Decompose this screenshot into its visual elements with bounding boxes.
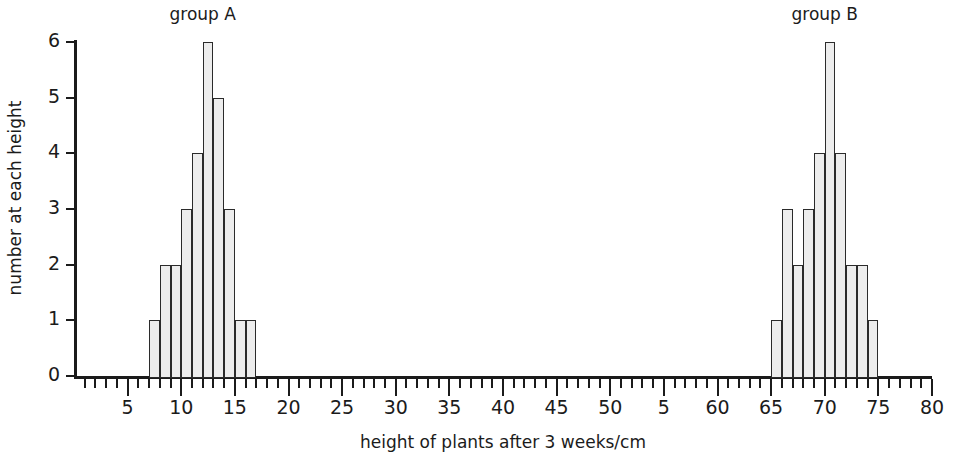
x-tick-label: 45: [532, 396, 582, 418]
x-tick-minor: [320, 379, 322, 388]
x-tick-major: [448, 379, 450, 396]
histogram-bar: [203, 42, 214, 378]
x-tick-minor: [834, 379, 836, 388]
histogram-bar: [846, 265, 857, 378]
x-tick-minor: [330, 379, 332, 388]
x-tick-minor: [802, 379, 804, 388]
x-tick-minor: [277, 379, 279, 388]
x-tick-label: 5: [103, 396, 153, 418]
x-axis-label: height of plants after 3 weeks/cm: [74, 432, 932, 452]
histogram-bar: [835, 153, 846, 378]
x-tick-minor: [148, 379, 150, 388]
x-tick-label: 20: [264, 396, 314, 418]
x-tick-minor: [641, 379, 643, 388]
x-tick-minor: [223, 379, 225, 388]
x-tick-minor: [427, 379, 429, 388]
histogram-bar: [782, 209, 793, 378]
x-tick-minor: [105, 379, 107, 388]
x-tick-minor: [652, 379, 654, 388]
x-tick-label: 65: [746, 396, 796, 418]
x-tick-label: 60: [693, 396, 743, 418]
x-tick-minor: [363, 379, 365, 388]
histogram-bar: [857, 265, 868, 378]
x-tick-minor: [191, 379, 193, 388]
x-tick-minor: [599, 379, 601, 388]
x-tick-minor: [245, 379, 247, 388]
x-tick-minor: [298, 379, 300, 388]
x-tick-minor: [94, 379, 96, 388]
x-tick-minor: [481, 379, 483, 388]
y-tick: [66, 41, 75, 43]
x-tick-major: [717, 379, 719, 396]
x-tick-minor: [513, 379, 515, 388]
histogram-bar: [825, 42, 836, 378]
x-tick-major: [234, 379, 236, 396]
y-tick: [66, 319, 75, 321]
x-tick-major: [341, 379, 343, 396]
x-tick-minor: [491, 379, 493, 388]
x-tick-label: 50: [585, 396, 635, 418]
y-tick-label: 2: [26, 252, 60, 274]
x-tick-minor: [384, 379, 386, 388]
x-tick-major: [609, 379, 611, 396]
y-tick-label: 6: [26, 29, 60, 51]
histogram-bar: [171, 265, 182, 378]
histogram-bar: [192, 153, 203, 378]
x-tick-minor: [266, 379, 268, 388]
x-tick-label: 5: [639, 396, 689, 418]
x-tick-minor: [202, 379, 204, 388]
x-tick-minor: [159, 379, 161, 388]
x-tick-major: [824, 379, 826, 396]
y-tick-label: 4: [26, 140, 60, 162]
x-tick-label: 75: [853, 396, 903, 418]
x-tick-minor: [84, 379, 86, 388]
x-tick-minor: [738, 379, 740, 388]
y-tick-label: 5: [26, 85, 60, 107]
x-tick-major: [127, 379, 129, 396]
x-tick-major: [395, 379, 397, 396]
x-tick-minor: [910, 379, 912, 388]
x-tick-label: 40: [478, 396, 528, 418]
x-tick-minor: [749, 379, 751, 388]
x-tick-minor: [588, 379, 590, 388]
x-tick-minor: [459, 379, 461, 388]
x-tick-major: [931, 379, 933, 396]
x-tick-minor: [373, 379, 375, 388]
x-tick-minor: [212, 379, 214, 388]
x-tick-minor: [706, 379, 708, 388]
histogram-bar: [771, 320, 782, 378]
x-tick-minor: [438, 379, 440, 388]
x-tick-minor: [523, 379, 525, 388]
x-tick-minor: [920, 379, 922, 388]
x-tick-minor: [674, 379, 676, 388]
x-tick-major: [180, 379, 182, 396]
y-tick: [66, 208, 75, 210]
y-tick-label: 3: [26, 196, 60, 218]
y-tick: [66, 152, 75, 154]
x-tick-minor: [888, 379, 890, 388]
x-tick-label: 70: [800, 396, 850, 418]
x-tick-minor: [899, 379, 901, 388]
x-tick-minor: [170, 379, 172, 388]
x-tick-minor: [867, 379, 869, 388]
x-tick-minor: [813, 379, 815, 388]
histogram-bar: [181, 209, 192, 378]
x-tick-minor: [620, 379, 622, 388]
y-tick: [66, 97, 75, 99]
x-tick-major: [502, 379, 504, 396]
x-tick-minor: [309, 379, 311, 388]
x-tick-minor: [684, 379, 686, 388]
y-tick: [66, 264, 75, 266]
x-tick-label: 80: [907, 396, 957, 418]
x-tick-minor: [781, 379, 783, 388]
x-tick-label: 15: [210, 396, 260, 418]
histogram-bar: [803, 209, 814, 378]
x-tick-minor: [577, 379, 579, 388]
x-tick-major: [556, 379, 558, 396]
x-tick-label: 30: [371, 396, 421, 418]
y-tick: [66, 375, 75, 377]
x-tick-minor: [405, 379, 407, 388]
x-tick-minor: [631, 379, 633, 388]
x-tick-major: [663, 379, 665, 396]
histogram-bar: [224, 209, 235, 378]
